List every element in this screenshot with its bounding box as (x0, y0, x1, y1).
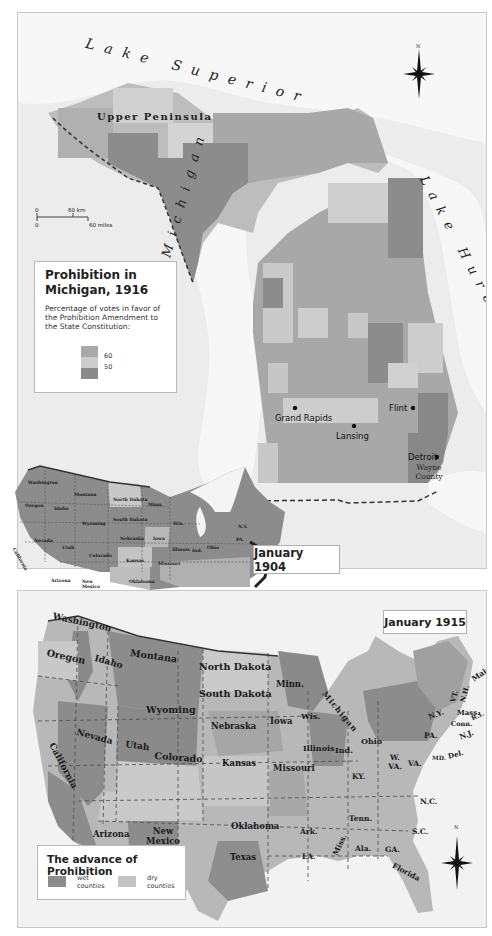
state-1904-arizona: Arizona (51, 578, 70, 583)
state-1904-utah: Utah (62, 545, 74, 550)
state-1904-south-dakota: South Dakota (113, 517, 147, 522)
state-1904-ny: N.Y. (238, 524, 248, 529)
city-grand-rapids: Grand Rapids (275, 413, 332, 423)
state-1904-missouri: Missouri (158, 561, 180, 566)
state-arizona: Arizona (93, 829, 130, 839)
state-oklahoma: Oklahoma (231, 821, 279, 831)
legend-tick-50: 50 (104, 363, 112, 371)
state-ind: Ind. (335, 745, 353, 755)
state-1904-colorado: Colorado (89, 553, 112, 558)
state-wis: Wis. (301, 711, 320, 721)
upper-peninsula-label: Upper Peninsula (97, 111, 212, 122)
wet-counties-label: wet counties (77, 874, 117, 890)
state-1904-montana: Montana (74, 492, 96, 497)
michigan-legend-title: Prohibition in Michigan, 1916 (45, 268, 155, 298)
state-1904-north-dakota: North Dakota (113, 497, 147, 502)
wayne-county-label: Wayne County (414, 463, 444, 481)
state-ga: GA. (385, 845, 400, 854)
state-1904-ohio: Ohio (207, 545, 219, 550)
state-texas: Texas (230, 852, 256, 862)
state-1904-nevada: Nevada (34, 538, 53, 543)
state-nc: N.C. (420, 797, 437, 806)
state-missouri: Missouri (273, 763, 315, 773)
state-1904-new-mexico: New Mexico (82, 579, 98, 589)
legend-swatch-low (81, 368, 98, 379)
state-sc: S.C. (412, 827, 428, 836)
legend-swatch-mid (81, 357, 98, 368)
state-illinois: Illinois (303, 743, 335, 753)
state-conn: Conn. (451, 720, 472, 728)
michigan-legend-description: Percentage of votes in favor of the Proh… (45, 304, 170, 331)
state-md: MD. (432, 754, 446, 761)
state-1904-oklahoma: Oklahoma (129, 579, 155, 584)
state-1904-wis: Wis. (173, 521, 184, 526)
state-1904-pa: PA. (236, 537, 244, 542)
date-label-1915: January 1915 (383, 610, 467, 634)
state-tenn: Tenn. (349, 814, 372, 823)
state-new-mexico: New Mexico (143, 826, 183, 846)
state-minn: Minn. (276, 679, 304, 689)
state-1904-ind: Ind. (192, 548, 202, 553)
wet-counties-swatch (48, 876, 66, 887)
compass-north-label: N (416, 43, 420, 49)
state-iowa: Iowa (270, 716, 292, 726)
state-la: LA. (302, 852, 316, 861)
state-ala: Ala. (355, 844, 371, 853)
legend-swatch-high (81, 346, 98, 357)
state-ky: KY. (352, 772, 365, 781)
legend-tick-60: 60 (104, 352, 112, 360)
michigan-legend: Prohibition in Michigan, 1916 Percentage… (34, 261, 177, 393)
compass-north-label-1915: N (454, 824, 458, 830)
prohibition-legend: The advance of Prohibition wet counties … (37, 845, 186, 900)
state-north-dakota: North Dakota (199, 661, 271, 672)
city-flint: Flint (389, 403, 407, 413)
state-wyoming: Wyoming (146, 704, 196, 715)
dry-counties-swatch (118, 876, 136, 887)
state-1904-nebraska: Nebraska (120, 536, 144, 541)
date-label-1904: January 1904 (253, 545, 340, 574)
state-south-dakota: South Dakota (199, 688, 272, 699)
state-nebraska: Nebraska (211, 721, 256, 731)
state-1904-oregon: Oregon (25, 503, 44, 508)
scale-km-label: 60 km (68, 207, 85, 213)
scale-mi-zero: 0 (35, 222, 39, 228)
state-1904-minn: Minn. (148, 502, 163, 507)
state-ohio: Ohio (361, 736, 382, 746)
state-1904-iowa: Iowa (153, 536, 165, 541)
scale-mi-label: 60 miles (89, 222, 112, 228)
us-1904-map: Washington Montana North Dakota Minn. Or… (0, 462, 290, 592)
state-wva: W. VA. (386, 753, 404, 771)
state-1904-idaho: Idaho (54, 506, 68, 511)
us-1915-map-panel: N Washington Montana North Dakota Minn. … (17, 590, 487, 928)
state-1904-wyoming: Wyoming (82, 521, 105, 526)
state-ark: Ark. (300, 827, 318, 836)
state-1904-kansas: Kansas (126, 558, 144, 563)
scale-km-zero: 0 (35, 207, 39, 213)
state-pa: PA. (424, 731, 438, 740)
city-detroit: Detroit (408, 452, 437, 462)
state-va: VA. (408, 759, 422, 768)
dry-counties-label: dry counties (147, 874, 187, 890)
state-kansas: Kansas (222, 758, 256, 768)
state-1904-washington: Washington (28, 480, 58, 485)
city-lansing: Lansing (336, 431, 369, 441)
state-1904-illinois: Illinois (172, 547, 190, 552)
